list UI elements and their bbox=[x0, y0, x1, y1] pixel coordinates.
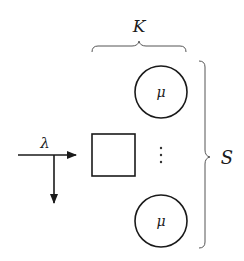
server-count-brace bbox=[92, 41, 186, 52]
queue-buffer bbox=[92, 134, 135, 176]
capacity-label: S bbox=[221, 147, 233, 168]
arrival-rate-label: λ bbox=[39, 134, 50, 152]
server-bottom: μ bbox=[135, 195, 187, 247]
ellipsis-dots bbox=[160, 147, 162, 163]
queue-diagram: K λ μ μ S bbox=[0, 0, 244, 261]
server-count-label: K bbox=[132, 16, 147, 36]
service-rate-label: μ bbox=[156, 84, 165, 100]
service-rate-label: μ bbox=[156, 213, 165, 229]
capacity-brace bbox=[199, 61, 210, 248]
server-top: μ bbox=[135, 66, 187, 118]
